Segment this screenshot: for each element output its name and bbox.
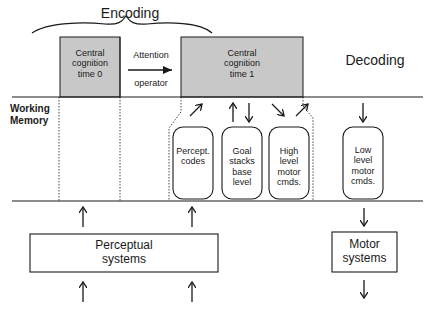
buffer-low-level-label: Low level motor cmds.	[341, 145, 385, 186]
arrow-high-up	[296, 104, 308, 116]
central-cognition-time1-label: Central cognition time 1	[181, 48, 303, 79]
arrow-high-down	[272, 104, 284, 116]
central-cognition-time0-label: Central cognition time 0	[60, 48, 120, 79]
buffer-goal-label: Goal stacks base level	[220, 146, 264, 187]
buffer-high-level-label: High level motor cmds.	[267, 146, 311, 187]
arrow-percept-up	[190, 104, 202, 116]
motor-systems-label: Motor systems	[332, 238, 397, 266]
perceptual-systems-label: Perceptual systems	[30, 239, 218, 267]
encoding-label: Encoding	[90, 5, 170, 21]
attention-label: Attention	[121, 50, 181, 60]
buffer-percept-label: Percept. codes	[171, 146, 215, 167]
decoding-label: Decoding	[330, 52, 420, 68]
working-memory-label: Working Memory	[10, 103, 60, 126]
operator-label: operator	[121, 78, 181, 88]
